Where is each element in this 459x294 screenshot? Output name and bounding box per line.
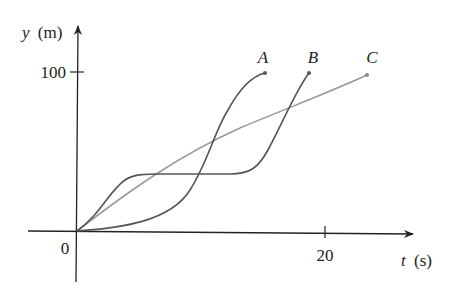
curve-c	[77, 75, 367, 231]
position-time-chart: 100 20 0 y (m) t (s) A B C	[0, 0, 459, 294]
x-tick-label-20: 20	[317, 246, 334, 265]
x-axis-var: t	[401, 251, 407, 270]
y-axis-var: y	[20, 23, 30, 42]
curve-b-label: B	[308, 48, 319, 67]
x-axis	[28, 231, 413, 234]
curve-a	[77, 73, 265, 231]
y-axis	[76, 26, 78, 282]
curve-c-endpoint	[365, 73, 369, 77]
curve-b-endpoint	[307, 71, 311, 75]
curve-a-endpoint	[263, 71, 267, 75]
x-axis-title: t (s)	[401, 251, 432, 270]
y-axis-title: y (m)	[20, 23, 62, 42]
x-axis-unit: (s)	[414, 251, 432, 270]
y-tick-label-100: 100	[41, 63, 67, 82]
y-axis-unit: (m)	[38, 23, 63, 42]
curve-c-label: C	[366, 48, 378, 67]
curve-a-label: A	[257, 48, 269, 67]
origin-label: 0	[61, 239, 70, 258]
